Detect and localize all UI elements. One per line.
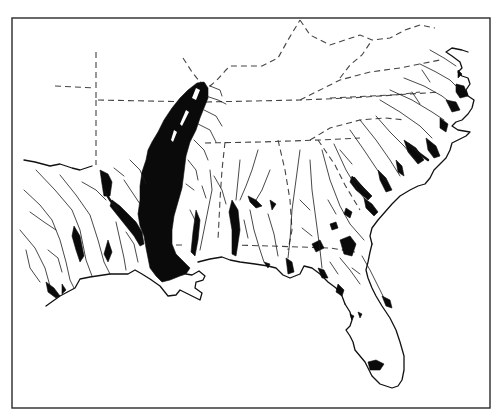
map-figure: [0, 0, 500, 415]
map-canvas: [0, 0, 500, 415]
